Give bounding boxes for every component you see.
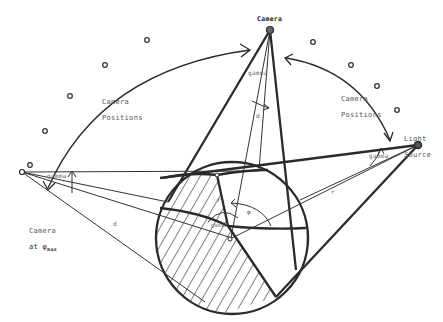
center-marker — [228, 237, 232, 241]
label-camera-positions-right: Camera Positions — [332, 87, 382, 119]
label-light-source: Light Source — [395, 127, 431, 159]
label-light-source-1: Light — [404, 135, 427, 143]
label-camera-positions-left-2: Positions — [102, 114, 143, 122]
label-d-left: d — [113, 220, 117, 228]
label-r-right: r — [331, 188, 335, 196]
camera-top-dot — [267, 27, 274, 34]
label-camera-positions-right-2: Positions — [341, 111, 382, 119]
label-d-vertical: d — [256, 112, 260, 120]
label-camera-max-2: at φ — [29, 243, 47, 251]
surface-point-marker — [215, 173, 219, 177]
label-r-center: r — [217, 196, 221, 204]
label-camera-max-sub: max — [47, 246, 57, 252]
label-camera-max: Camera at φmax — [20, 219, 57, 253]
label-gamma-right: gamma — [369, 152, 389, 160]
label-camera-positions-left-1: Camera — [102, 98, 129, 106]
label-gamma-center: gamma — [211, 221, 228, 229]
label-camera-max-1: Camera — [29, 227, 56, 235]
label-gamma-top: gamma — [248, 69, 268, 77]
label-camera-positions-right-1: Camera — [341, 95, 368, 103]
label-phi-center: φ — [247, 208, 251, 216]
label-camera-top: Camera — [257, 15, 282, 23]
geometry-diagram — [0, 0, 443, 322]
shadow-region — [140, 170, 276, 320]
label-light-source-2: Source — [404, 151, 431, 159]
label-gamma-left: gamma — [47, 172, 67, 180]
label-camera-positions-left: Camera Positions — [93, 90, 143, 122]
camera-max-dot — [20, 170, 25, 175]
